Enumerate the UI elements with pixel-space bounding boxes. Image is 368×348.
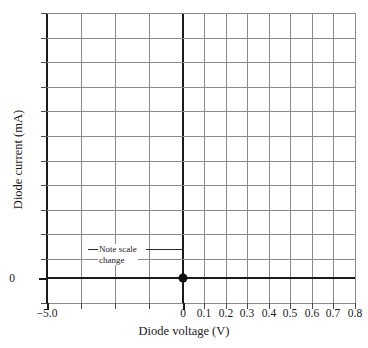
y-axis-tick bbox=[41, 62, 47, 63]
y-axis-tick bbox=[41, 111, 47, 112]
y-axis-tick-label: 0 bbox=[9, 271, 15, 285]
x-axis-tick-label: 0 bbox=[180, 306, 186, 320]
gridline-horizontal bbox=[47, 303, 355, 304]
annotation-leader-right bbox=[146, 249, 183, 250]
gridline-horizontal bbox=[47, 87, 355, 88]
gridline-horizontal bbox=[47, 234, 355, 235]
x-axis-title: Diode voltage (V) bbox=[0, 324, 368, 339]
y-axis-tick bbox=[41, 38, 47, 39]
y-axis-tick bbox=[41, 185, 47, 186]
gridline-horizontal bbox=[47, 185, 355, 186]
gridline-horizontal bbox=[47, 259, 355, 260]
x-axis-tick bbox=[149, 303, 150, 309]
y-axis-title: Diode current (mA) bbox=[11, 75, 26, 245]
x-axis-tick-label: 0.2 bbox=[219, 306, 233, 320]
y-axis-tick bbox=[41, 161, 47, 162]
x-axis-tick bbox=[115, 303, 116, 309]
annotation-line-1: Note scale bbox=[99, 244, 137, 255]
x-axis-zero-line bbox=[47, 277, 355, 279]
gridline-horizontal bbox=[47, 111, 355, 112]
x-axis-tick-label: 0.8 bbox=[348, 306, 362, 320]
gridline-vertical bbox=[355, 13, 356, 303]
y-axis-tick bbox=[41, 210, 47, 211]
x-axis-tick-label: 0.5 bbox=[283, 306, 297, 320]
scale-change-annotation: Note scale change bbox=[98, 244, 138, 265]
y-axis-tick bbox=[41, 259, 47, 260]
gridline-horizontal bbox=[47, 161, 355, 162]
x-axis-tick-label: 0.7 bbox=[326, 306, 340, 320]
x-axis-tick-label: −5.0 bbox=[37, 306, 58, 320]
gridline-horizontal bbox=[47, 136, 355, 137]
diode-iv-chart-figure: −5.000.10.20.30.40.50.60.70.8 0 Note sca… bbox=[0, 0, 368, 348]
y-axis-tick bbox=[41, 87, 47, 88]
plot-area bbox=[47, 13, 355, 303]
data-point-marker bbox=[179, 274, 188, 283]
x-axis-tick-label: 0.4 bbox=[262, 306, 276, 320]
y-axis-tick bbox=[41, 303, 47, 304]
gridline-horizontal bbox=[47, 13, 355, 14]
y-axis-tick bbox=[41, 136, 47, 137]
x-axis-tick-label: 0.3 bbox=[240, 306, 254, 320]
gridline-horizontal bbox=[47, 62, 355, 63]
x-axis-tick bbox=[81, 303, 82, 309]
y-axis-tick bbox=[41, 13, 47, 14]
gridline-horizontal bbox=[47, 38, 355, 39]
y-axis-tick bbox=[39, 278, 47, 280]
gridline-horizontal bbox=[47, 210, 355, 211]
y-axis-tick bbox=[41, 234, 47, 235]
annotation-line-2: change bbox=[99, 255, 137, 266]
x-axis-tick-label: 0.1 bbox=[197, 306, 211, 320]
x-axis-tick-label: 0.6 bbox=[305, 306, 319, 320]
